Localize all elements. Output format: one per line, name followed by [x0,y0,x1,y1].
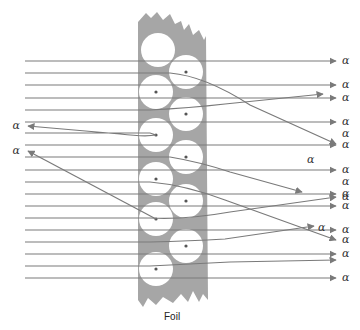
nucleus [154,90,157,93]
alpha-label: α [307,153,315,166]
atom [139,162,173,196]
alpha-label: α [318,221,326,234]
alpha-label: α [13,119,21,132]
atom [141,33,175,67]
alpha-label: α [342,271,350,284]
alpha-label: α [13,144,21,157]
nucleus [154,177,157,180]
atom [169,55,203,89]
alpha-label: α [342,247,350,260]
nucleus [184,244,187,247]
nucleus [184,112,187,115]
ray-backscattered [25,126,156,136]
atom [169,97,203,131]
rutherford-scattering-diagram: ααααααααααααααααααα Foil [0,0,360,330]
alpha-label: α [342,138,350,151]
ray-backscattered [28,151,156,219]
alpha-label: α [342,91,350,104]
atom [139,252,173,286]
atom [139,75,173,109]
nucleus [184,199,187,202]
backscattered-rays [25,126,156,219]
alpha-label: α [342,199,350,212]
nucleus [154,267,157,270]
atom [169,229,203,263]
foil-label: Foil [164,311,180,322]
nucleus [184,155,187,158]
alpha-label: α [342,78,350,91]
alpha-label: α [342,54,350,67]
atom [169,184,203,218]
nucleus [184,70,187,73]
alpha-label: α [342,233,350,246]
